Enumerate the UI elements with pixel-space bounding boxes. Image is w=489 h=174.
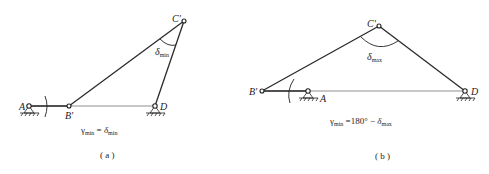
joint-d bbox=[463, 89, 467, 93]
label-delta-max: δmax bbox=[367, 51, 382, 63]
joint-c bbox=[182, 19, 186, 23]
coupler-bc bbox=[262, 26, 379, 91]
label-b: B′ bbox=[65, 110, 74, 121]
label-delta-min: δmin bbox=[155, 46, 169, 58]
rocker-cd bbox=[379, 26, 465, 91]
label-b: B′ bbox=[249, 86, 258, 97]
angle-arc-delta-min bbox=[160, 39, 176, 45]
formula-a: γmin = δmin bbox=[80, 125, 117, 136]
formula-b: γmin =180° − δmax bbox=[329, 116, 392, 127]
label-a: A bbox=[18, 101, 26, 112]
label-d: D bbox=[470, 86, 479, 97]
label-c: C′ bbox=[367, 18, 377, 29]
label-a: A bbox=[319, 93, 327, 104]
angle-arc-delta-max bbox=[361, 37, 398, 47]
joint-d bbox=[153, 104, 157, 108]
joint-c bbox=[377, 24, 381, 28]
figure-a: A B′ C′ D δmin γmin = δmin ( a ) bbox=[18, 13, 186, 160]
joint-b bbox=[67, 104, 71, 108]
label-d: D bbox=[159, 101, 168, 112]
four-bar-linkage-diagrams: A B′ C′ D δmin γmin = δmin ( a ) bbox=[0, 0, 489, 174]
caption-a: ( a ) bbox=[100, 150, 115, 160]
rocker-cd bbox=[155, 21, 184, 106]
joint-b bbox=[260, 89, 264, 93]
joint-a bbox=[27, 104, 31, 108]
joint-a bbox=[306, 89, 310, 93]
label-c: C′ bbox=[172, 13, 182, 24]
coupler-bc bbox=[69, 21, 184, 106]
caption-b: ( b ) bbox=[375, 151, 390, 161]
figure-b: B′ A C′ D δmax γmin =180° − δmax ( b ) bbox=[249, 18, 479, 161]
